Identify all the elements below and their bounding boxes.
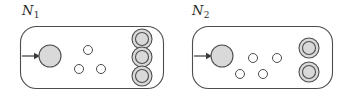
plain-state-n1-1[interactable]: [84, 46, 93, 55]
plain-state-n2-4[interactable]: [259, 70, 268, 79]
accept-state-inner-n1-3: [136, 70, 149, 83]
machine-group-n2: [193, 27, 333, 89]
plain-state-n2-3[interactable]: [236, 70, 245, 79]
diagram-canvas: N1 N2: [0, 0, 347, 100]
plain-state-n2-1[interactable]: [249, 54, 258, 63]
start-state-n1[interactable]: [39, 45, 61, 67]
start-state-n2[interactable]: [211, 45, 233, 67]
accept-state-inner-n2-2: [303, 66, 316, 79]
plain-state-n1-3[interactable]: [97, 65, 106, 74]
automata-diagram: [0, 0, 347, 100]
plain-state-n2-2[interactable]: [273, 54, 282, 63]
accept-state-inner-n2-1: [303, 42, 316, 55]
accept-state-inner-n1-2: [136, 51, 149, 64]
accept-state-inner-n1-1: [136, 33, 149, 46]
plain-state-n1-2[interactable]: [75, 65, 84, 74]
machine-group-n1: [21, 27, 164, 89]
